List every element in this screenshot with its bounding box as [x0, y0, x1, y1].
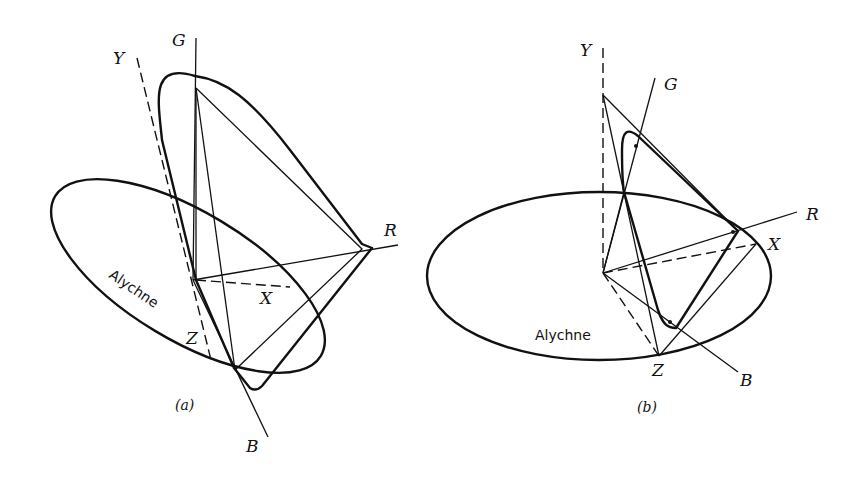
caption-a: (a) — [175, 397, 194, 413]
origin-to-g-b — [603, 192, 624, 273]
caption-b: (b) — [637, 399, 657, 415]
label-z-a: Z — [185, 328, 199, 348]
r-axis-a — [193, 245, 398, 280]
figure-b: Y G R X Z B Alychne (b) — [427, 40, 819, 415]
label-y-a: Y — [113, 48, 126, 68]
z-to-x-b — [659, 244, 756, 356]
alychne-ellipse-a — [22, 141, 354, 410]
alychne-label-b: Alychne — [535, 327, 591, 343]
figure-a: G Y R X Z B Alychne (a) — [22, 30, 398, 456]
g-point-b — [634, 144, 638, 148]
label-b-b: B — [739, 370, 753, 390]
color-space-diagram: G Y R X Z B Alychne (a) — [0, 0, 852, 478]
b-point-b — [668, 320, 672, 324]
label-r-b: R — [805, 204, 819, 224]
spectral-locus-b — [622, 132, 738, 328]
label-x-b: X — [766, 234, 781, 254]
alychne-ellipse-b — [427, 192, 771, 360]
label-y-b: Y — [580, 40, 593, 60]
label-g-a: G — [172, 30, 186, 50]
label-b-a: B — [245, 436, 259, 456]
y-apex-to-z-b — [603, 95, 659, 356]
label-z-b: Z — [651, 360, 665, 380]
x-axis-a — [196, 280, 290, 287]
label-g-b: G — [664, 74, 678, 94]
r-point-b — [731, 230, 735, 234]
label-x-a: X — [258, 288, 273, 308]
primary-triangle-a — [196, 88, 362, 370]
label-r-a: R — [383, 220, 397, 240]
